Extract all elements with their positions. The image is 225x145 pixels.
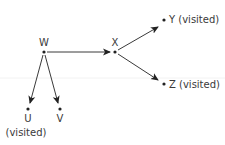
node-z	[162, 82, 165, 85]
node-x	[113, 50, 116, 53]
edge-x-z	[118, 54, 158, 80]
node-v	[58, 107, 61, 110]
edge-w-u	[30, 55, 43, 103]
label-x: X	[112, 37, 119, 48]
label-z: Z (visited)	[169, 79, 220, 90]
edge-x-y	[118, 27, 158, 50]
edge-w-v	[45, 55, 58, 103]
node-y	[162, 18, 165, 21]
node-w	[42, 50, 45, 53]
label-v: V	[57, 113, 64, 124]
label-y: Y (visited)	[168, 14, 219, 25]
label-w: W	[39, 37, 49, 48]
label-u-status: (visited)	[6, 127, 47, 138]
label-u: U	[24, 113, 31, 124]
graph-diagram: W X Y (visited) Z (visited) U (visited) …	[0, 0, 225, 145]
node-u	[26, 107, 29, 110]
